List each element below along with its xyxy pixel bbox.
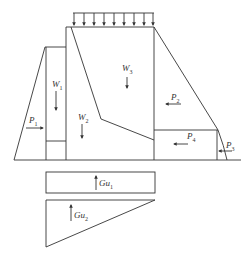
label-p4: P4 <box>187 132 196 143</box>
label-w3: W3 <box>122 64 133 75</box>
label-p3: P3 <box>226 141 235 152</box>
gu2-triangle <box>46 200 155 247</box>
dam-diagram <box>0 0 246 261</box>
label-w1: W1 <box>52 80 63 91</box>
top-load-arrows <box>74 13 153 25</box>
dam-body <box>66 27 154 160</box>
label-w2: W2 <box>78 113 89 124</box>
right-pressure-triangle <box>154 27 218 130</box>
label-p2: P2 <box>171 93 180 104</box>
left-pressure-triangle <box>14 47 66 160</box>
label-p1: P1 <box>29 116 38 127</box>
label-gu1: Gu1 <box>99 179 113 190</box>
label-gu2: Gu2 <box>74 211 88 222</box>
